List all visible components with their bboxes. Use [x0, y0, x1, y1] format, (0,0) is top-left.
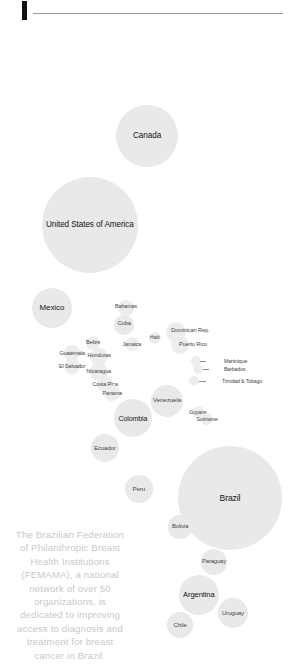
bubble-label-colombia: Colombia [119, 415, 148, 422]
caption-paragraph: The Brazilian Federation of Philanthropi… [14, 528, 126, 662]
bubble-label-mexico: Mexico [40, 304, 65, 312]
bubble-label-panama: Panama [103, 391, 122, 396]
bubble-label-peru: Peru [133, 486, 146, 492]
leader-line [203, 369, 209, 370]
bubble-label-puerto-rico: Puerto Rico [179, 342, 207, 348]
bubble-label-martinique: Martinique [224, 359, 247, 364]
bubble-label-trinidad-tobago: Trinidad & Tobago [222, 379, 262, 384]
bubble-label-paraguay: Paraguay [202, 559, 226, 565]
bubble-label-uruguay: Uruguay [222, 610, 244, 616]
bubble-label-suriname: Suriname [197, 417, 218, 422]
bubble-label-bahamas: Bahamas [115, 304, 137, 309]
bubble-label-united-states-of-america: United States of America [46, 221, 134, 229]
bubble-label-bolivia: Bolivia [172, 524, 188, 530]
bubble-label-brazil: Brazil [220, 494, 241, 503]
bubble-label-haiti: Haiti [150, 335, 160, 340]
bubble-label-honduras: Honduras [88, 353, 111, 359]
page-root: CanadaUnited States of AmericaMexicoBaha… [0, 0, 294, 670]
bubble-label-cuba: Cuba [118, 321, 131, 327]
bubble-label-el-salvador: El Salvador [59, 364, 85, 369]
bubble-label-argentina: Argentina [183, 591, 215, 599]
bubble-trinidad-tobago[interactable] [189, 376, 199, 386]
bubble-label-chile: Chile [174, 622, 187, 628]
bubble-label-barbados: Barbados [224, 367, 245, 372]
bubble-label-canada: Canada [133, 132, 161, 140]
bubble-label-belize: Belize [86, 340, 100, 345]
bubble-label-nicaragua: Nicaragua [87, 369, 112, 375]
bubble-label-venezuela: Venezuela [153, 397, 181, 403]
bubble-label-dominican-rep: Dominican Rep. [171, 328, 209, 334]
bubble-barbados[interactable] [193, 364, 203, 374]
leader-line [199, 381, 206, 382]
leader-line [200, 361, 206, 362]
bubble-label-jamaica: Jamaica [123, 342, 142, 347]
bubble-label-guatemala: Guatemala [60, 351, 85, 356]
bubble-label-ecuador: Ecuador [94, 445, 116, 451]
